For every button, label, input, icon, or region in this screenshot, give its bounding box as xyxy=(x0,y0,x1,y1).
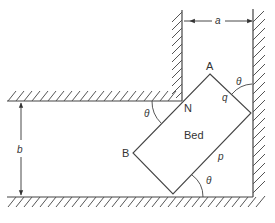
label-a: a xyxy=(215,15,221,26)
label-theta-top-right: θ xyxy=(236,76,242,87)
floor-wall xyxy=(7,196,265,207)
theta-arc-left xyxy=(152,101,161,123)
label-q: q xyxy=(222,92,228,103)
label-b: b xyxy=(17,144,23,155)
outer-right-wall xyxy=(253,9,265,197)
diagram-canvas: a b A B N Bed p q θ θ θ xyxy=(0,0,275,223)
theta-arc-bottom xyxy=(192,175,203,197)
corridor-corner-diagram: a b A B N Bed p q θ θ θ xyxy=(0,0,275,223)
inner-vertical-wall xyxy=(172,10,182,101)
label-p: p xyxy=(217,151,224,162)
label-theta-left: θ xyxy=(144,108,150,119)
label-N: N xyxy=(184,102,192,114)
label-A: A xyxy=(206,60,214,72)
theta-arc-top-right xyxy=(232,84,252,94)
label-B: B xyxy=(122,147,129,159)
upper-wall xyxy=(7,91,182,101)
label-theta-bottom: θ xyxy=(206,175,212,186)
label-bed: Bed xyxy=(184,129,204,141)
